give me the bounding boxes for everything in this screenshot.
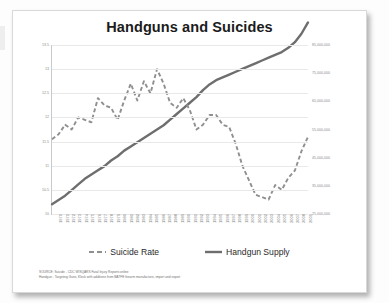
y-axis-tick-label-left: 13 bbox=[45, 67, 49, 71]
y-axis-tick-label-left: 12.5 bbox=[42, 91, 49, 95]
legend-item-handgun-supply: Handgun Supply bbox=[205, 247, 290, 257]
y-axis-tick-label-right: 45,000,000 bbox=[312, 156, 330, 160]
y-axis-tick-label-left: 12 bbox=[45, 115, 49, 119]
dashed-line-swatch-icon bbox=[89, 248, 106, 256]
solid-line-swatch-icon bbox=[205, 248, 222, 256]
page-margin-strip bbox=[0, 26, 5, 50]
y-axis-tick-label-right: 55,000,000 bbox=[312, 128, 330, 132]
y-axis-tick-label-left: 10.5 bbox=[42, 188, 49, 192]
y-axis-tick-label-right: 75,000,000 bbox=[312, 71, 330, 75]
y-axis-tick-label-left: 10 bbox=[45, 212, 49, 216]
y-axis-tick-label-right: 85,000,000 bbox=[312, 43, 330, 47]
gridline bbox=[52, 166, 308, 167]
y-axis-tick-label-left: 11 bbox=[45, 164, 49, 168]
chart-series-layer bbox=[52, 45, 308, 214]
legend-label-handgun-supply: Handgun Supply bbox=[226, 247, 290, 257]
plot-area: 13.51312.51211.51110.51085,000,00075,000… bbox=[51, 45, 308, 215]
gridline bbox=[52, 93, 308, 94]
source-attribution: SOURCE: Suicide - CDC WISQARS Fatal Inju… bbox=[39, 270, 180, 280]
x-axis-tick-label: 2009 bbox=[306, 214, 313, 223]
source-line-handgun: Handgun - Targeting Guns, Kleck with add… bbox=[39, 275, 180, 280]
y-axis-tick-label-right: 65,000,000 bbox=[312, 99, 330, 103]
gridline bbox=[52, 45, 308, 46]
y-axis-tick-label-left: 13.5 bbox=[42, 43, 49, 47]
y-axis-tick-label-right: 25,000,000 bbox=[312, 212, 330, 216]
gridline bbox=[52, 142, 308, 143]
gridline bbox=[52, 117, 308, 118]
page-root: Handguns and Suicides 13.51312.51211.511… bbox=[0, 0, 389, 303]
legend-label-suicide-rate: Suicide Rate bbox=[110, 247, 159, 257]
handgun-supply-line bbox=[52, 22, 308, 204]
chart-legend: Suicide Rate Handgun Supply bbox=[13, 247, 366, 257]
suicide-rate-line bbox=[52, 69, 308, 199]
y-axis-tick-label-left: 11.5 bbox=[42, 140, 49, 144]
y-axis-tick-label-right: 35,000,000 bbox=[312, 184, 330, 188]
chart-plot-wrapper: 13.51312.51211.51110.51085,000,00075,000… bbox=[21, 41, 360, 241]
chart-title: Handguns and Suicides bbox=[13, 19, 366, 35]
chart-slide: Handguns and Suicides 13.51312.51211.511… bbox=[12, 10, 367, 293]
legend-item-suicide-rate: Suicide Rate bbox=[89, 247, 159, 257]
gridline bbox=[52, 190, 308, 191]
gridline bbox=[52, 69, 308, 70]
